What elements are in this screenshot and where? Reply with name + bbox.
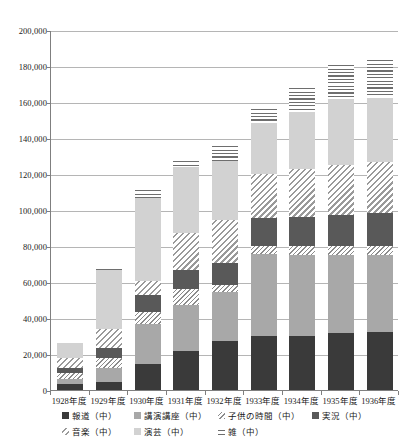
legend-item-jikkyou[interactable]: 実況（中） (312, 409, 367, 421)
x-tick-mark (398, 391, 399, 395)
legend-item-kouen[interactable]: 講演講座（中） (134, 409, 207, 421)
bar-segment-kodomo (328, 246, 354, 255)
y-axis-tick-label: 100,000 (19, 206, 47, 216)
legend-item-ongaku[interactable]: 音楽（中） (62, 425, 117, 437)
legend-item-zatsu[interactable]: 雑（中） (218, 425, 264, 437)
bar-segment-jikkyou (367, 213, 393, 246)
bar-segment-kouen (96, 368, 122, 382)
bar-segment-houdou (135, 364, 161, 390)
legend-label: 子供の時間（中） (228, 409, 300, 421)
bar-segment-kouen (367, 255, 393, 332)
bar-segment-kodomo (135, 312, 161, 325)
bar-segment-ongaku (173, 233, 199, 270)
bar-segment-jikkyou (212, 263, 238, 285)
bar-segment-jikkyou (96, 348, 122, 358)
bar-segment-houdou (328, 333, 354, 390)
x-axis-tick-label: 1930年度 (129, 394, 164, 406)
y-axis-tick-label: 180,000 (19, 62, 47, 72)
legend-item-kodomo[interactable]: 子供の時間（中） (218, 409, 300, 421)
bar-segment-engei (173, 167, 199, 234)
y-tick-mark (47, 283, 51, 284)
bar-segment-ongaku (135, 281, 161, 295)
x-axis-tick-label: 1932年度 (207, 394, 242, 406)
bar-stack (57, 343, 83, 390)
bar-segment-kodomo (173, 289, 199, 304)
bar-segment-jikkyou (173, 270, 199, 289)
y-axis-tick-label: 140,000 (19, 134, 47, 144)
bar-segment-kodomo (367, 246, 393, 255)
x-axis-tick-label: 1935年度 (323, 394, 358, 406)
legend-swatch-kouen-icon (134, 412, 141, 419)
bar-segment-zatsu (212, 144, 238, 162)
y-axis-tick-label: 120,000 (19, 170, 47, 180)
bar-segment-kodomo (251, 246, 277, 254)
bar-segment-zatsu (367, 58, 393, 97)
y-tick-mark (47, 247, 51, 248)
bar-segment-jikkyou (251, 218, 277, 246)
bar-segment-engei (289, 112, 315, 169)
bar-segment-zatsu (328, 63, 354, 99)
bar-segment-ongaku (328, 165, 354, 215)
x-axis-tick-label: 1936年度 (361, 394, 396, 406)
y-axis-tick-label: 80,000 (23, 242, 47, 252)
bar-segment-houdou (96, 382, 122, 390)
legend-row: 報道（中）講演講座（中）子供の時間（中）実況（中） (0, 409, 405, 425)
bar-stack (173, 159, 199, 390)
x-axis-tick-label: 1933年度 (245, 394, 280, 406)
bar-segment-houdou (251, 336, 277, 390)
y-tick-mark (47, 103, 51, 104)
bar-segment-ongaku (367, 162, 393, 213)
x-axis-tick-label: 1928年度 (52, 394, 87, 406)
y-tick-mark (47, 355, 51, 356)
bar-segment-kouen (212, 292, 238, 341)
bar-stack (96, 267, 122, 390)
bar-segment-houdou (212, 341, 238, 390)
x-axis: 1928年度1929年度1930年度1931年度1932年度1933年度1934… (50, 391, 398, 409)
legend-label: 講演講座（中） (144, 409, 207, 421)
gridline (51, 31, 398, 32)
legend-item-engei[interactable]: 演芸（中） (134, 425, 189, 437)
y-axis-labels: 200,000180,000160,000140,000120,000100,0… (0, 31, 47, 391)
bar-segment-engei (57, 343, 83, 358)
bar-segment-ongaku (289, 169, 315, 216)
legend-item-houdou[interactable]: 報道（中） (62, 409, 117, 421)
legend-swatch-houdou-icon (62, 412, 69, 419)
bar-segment-kodomo (212, 285, 238, 293)
bar-segment-engei (212, 161, 238, 220)
bar-stack (212, 144, 238, 390)
x-tick-mark (89, 391, 90, 395)
x-axis-tick-label: 1929年度 (91, 394, 126, 406)
bar-segment-kouen (251, 254, 277, 336)
bar-stack (328, 63, 354, 390)
y-tick-mark (47, 319, 51, 320)
bar-segment-houdou (173, 351, 199, 390)
bar-stack (367, 58, 393, 390)
y-axis-tick-label: 60,000 (23, 278, 47, 288)
y-tick-mark (47, 67, 51, 68)
chart-legend: 報道（中）講演講座（中）子供の時間（中）実況（中）音楽（中）演芸（中）雑（中） (0, 409, 405, 445)
bar-segment-houdou (289, 336, 315, 390)
bar-segment-houdou (57, 384, 83, 390)
bar-segment-jikkyou (135, 295, 161, 312)
bar-segment-engei (251, 123, 277, 174)
bar-segment-kouen (328, 255, 354, 333)
legend-swatch-kodomo-icon (218, 412, 225, 419)
bar-stack (289, 86, 315, 390)
bar-segment-engei (96, 270, 122, 329)
bar-segment-jikkyou (328, 215, 354, 247)
legend-label: 雑（中） (228, 425, 264, 437)
y-axis-tick-label: 40,000 (23, 314, 47, 324)
bar-segment-ongaku (96, 329, 122, 348)
bar-segment-kouen (173, 305, 199, 351)
y-tick-mark (47, 175, 51, 176)
y-tick-mark (47, 139, 51, 140)
x-tick-mark (321, 391, 322, 395)
x-axis-tick-label: 1931年度 (168, 394, 203, 406)
legend-swatch-ongaku-icon (62, 428, 69, 435)
bar-segment-kodomo (289, 246, 315, 254)
bar-segment-engei (135, 198, 161, 281)
y-tick-mark (47, 31, 51, 32)
bar-segment-ongaku (251, 174, 277, 219)
bar-segment-ongaku (57, 358, 83, 368)
bar-segment-zatsu (135, 188, 161, 198)
